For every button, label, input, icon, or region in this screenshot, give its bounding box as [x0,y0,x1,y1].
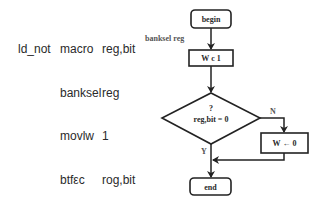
end-text: end [204,183,217,192]
banksel-annotation: banksel reg [145,34,184,43]
decision-question-mark: ? [209,104,213,113]
decision-condition: reg,bit = 0 [194,115,229,124]
begin-text: begin [202,15,221,24]
merge-connector [213,153,284,160]
flowchart: begin banksel reg W c 1 ? reg,bit = 0 N … [0,0,325,204]
assign-zero-text: W ← 0 [273,139,297,148]
no-label: N [270,107,276,116]
assign-one-text: W c 1 [201,54,220,63]
yes-label: Y [201,147,207,156]
no-branch-connector [260,118,284,132]
